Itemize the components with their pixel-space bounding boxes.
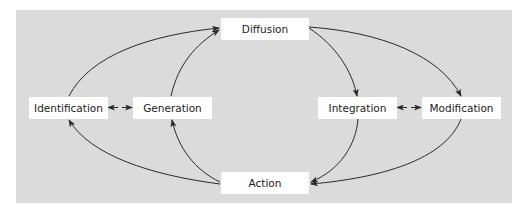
edge-action-to-generation <box>172 120 220 182</box>
node-action: Action <box>221 172 309 194</box>
edge-modification-to-action <box>311 119 461 184</box>
edge-diffusion-to-modification <box>309 27 461 96</box>
node-identification: Identification <box>29 97 108 119</box>
node-modification: Modification <box>422 97 501 119</box>
edge-diffusion-to-integration <box>309 28 357 96</box>
edge-integration-to-action <box>311 119 358 182</box>
edge-identification-to-diffusion <box>69 28 219 96</box>
node-diffusion: Diffusion <box>221 18 309 40</box>
edge-generation-to-diffusion <box>171 30 219 96</box>
edge-action-to-identification <box>69 120 220 184</box>
node-integration: Integration <box>318 97 397 119</box>
node-generation: Generation <box>133 97 212 119</box>
